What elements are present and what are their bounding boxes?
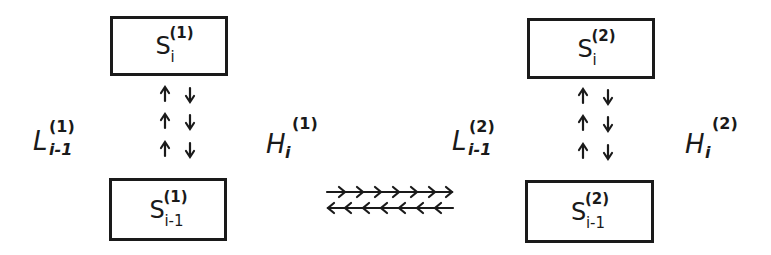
stage2-up-arrow-icon	[579, 89, 587, 158]
backward-exchange-arrow-icon	[328, 203, 453, 213]
stage1-down-arrow-icon	[186, 88, 194, 157]
flow-arrows	[0, 0, 771, 255]
forward-exchange-arrow-icon	[327, 187, 452, 197]
stage1-up-arrow-icon	[161, 87, 169, 156]
stage2-down-arrow-icon	[604, 90, 612, 159]
